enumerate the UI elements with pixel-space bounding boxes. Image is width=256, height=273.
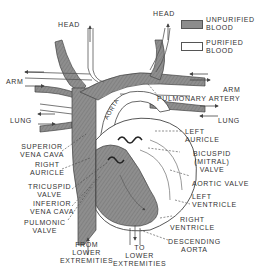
label-lung-right: LUNG — [218, 117, 240, 125]
label-inferior-vena-cava: INFERIOR VENA CAVA — [30, 200, 74, 216]
label-superior-vena-cava: SUPERIOR VENA CAVA — [20, 143, 64, 159]
label-aortic-valve: AORTIC VALVE — [192, 180, 249, 188]
legend-swatch-unpurified — [181, 20, 203, 29]
label-descending-aorta: DESCENDING AORTA — [168, 238, 221, 254]
label-tricuspid-valve: TRICUSPID VALVE — [28, 183, 71, 199]
label-head-right: HEAD — [153, 10, 175, 18]
label-left-auricle: LEFT AURICLE — [185, 128, 220, 144]
label-arm-left: ARM — [6, 78, 23, 86]
label-lung-left: LUNG — [10, 117, 32, 125]
legend-swatch-purified — [181, 42, 203, 51]
label-left-ventricle: LEFT VENTRICLE — [192, 193, 237, 209]
label-bicuspid-valve: BICUSPID (MITRAL) VALVE — [193, 150, 231, 174]
label-right-ventricle: RIGHT VENTRICLE — [170, 216, 215, 232]
legend-label-purified: PURIFIED BLOOD — [206, 39, 243, 55]
label-pulmonic-valve: PULMONIC VALVE — [24, 219, 66, 235]
label-from-lower-extremities: FROM LOWER EXTREMITIES — [60, 241, 113, 265]
label-head-left: HEAD — [58, 21, 80, 29]
label-pulmonary-artery: PULMONARY ARTERY — [157, 95, 240, 103]
label-to-lower-extremities: TO LOWER EXTREMITIES — [113, 244, 166, 268]
heart — [96, 118, 196, 231]
label-right-auricle: RIGHT AURICLE — [30, 161, 65, 177]
label-arm-right: ARM — [223, 86, 240, 94]
legend-label-unpurified: UNPURIFIED BLOOD — [206, 16, 255, 32]
